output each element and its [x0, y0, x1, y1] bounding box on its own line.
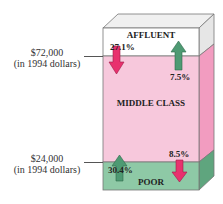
upper-threshold-label: $72,000 (in 1994 dollars): [4, 47, 90, 69]
flow-affluent-down-value: 27.1%: [110, 42, 135, 52]
band-label-poor: POOR: [103, 177, 199, 187]
band-label-middle-class: MIDDLE CLASS: [103, 98, 199, 108]
band-label-affluent: AFFLUENT: [103, 30, 199, 40]
lower-threshold-label: $24,000 (in 1994 dollars): [4, 153, 90, 175]
lower-threshold-note: (in 1994 dollars): [4, 164, 90, 175]
lower-leader-line: [84, 162, 103, 163]
upper-threshold-amount: $72,000: [4, 47, 90, 58]
flow-middle-up-value: 7.5%: [170, 72, 190, 82]
flow-poor-up-value: 30.4%: [108, 165, 133, 175]
flow-middle-down-value: 8.5%: [169, 149, 189, 159]
lower-threshold-amount: $24,000: [4, 153, 90, 164]
upper-threshold-note: (in 1994 dollars): [4, 58, 90, 69]
upper-leader-line: [84, 56, 103, 57]
